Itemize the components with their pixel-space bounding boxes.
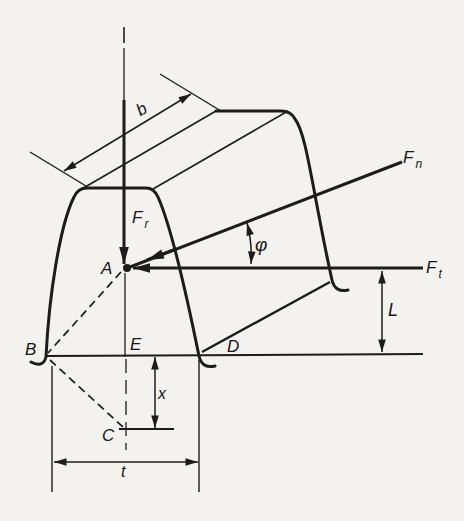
label-point-e: E [130,335,142,354]
paper-background [0,0,464,521]
label-point-c: C [102,426,115,445]
label-point-b: B [25,340,36,359]
label-dimension-t: t [121,463,126,480]
point-a-dot [123,264,131,272]
label-angle-phi: φ [255,234,267,255]
gear-tooth-force-diagram: A B C D E Fr Fn Ft b L x t φ [0,0,464,521]
label-dimension-x: x [157,385,167,402]
label-point-d: D [227,337,239,356]
gear-tooth-force-figure: A B C D E Fr Fn Ft b L x t φ [0,0,464,521]
label-point-a: A [100,259,112,278]
label-dimension-l: L [388,300,398,320]
